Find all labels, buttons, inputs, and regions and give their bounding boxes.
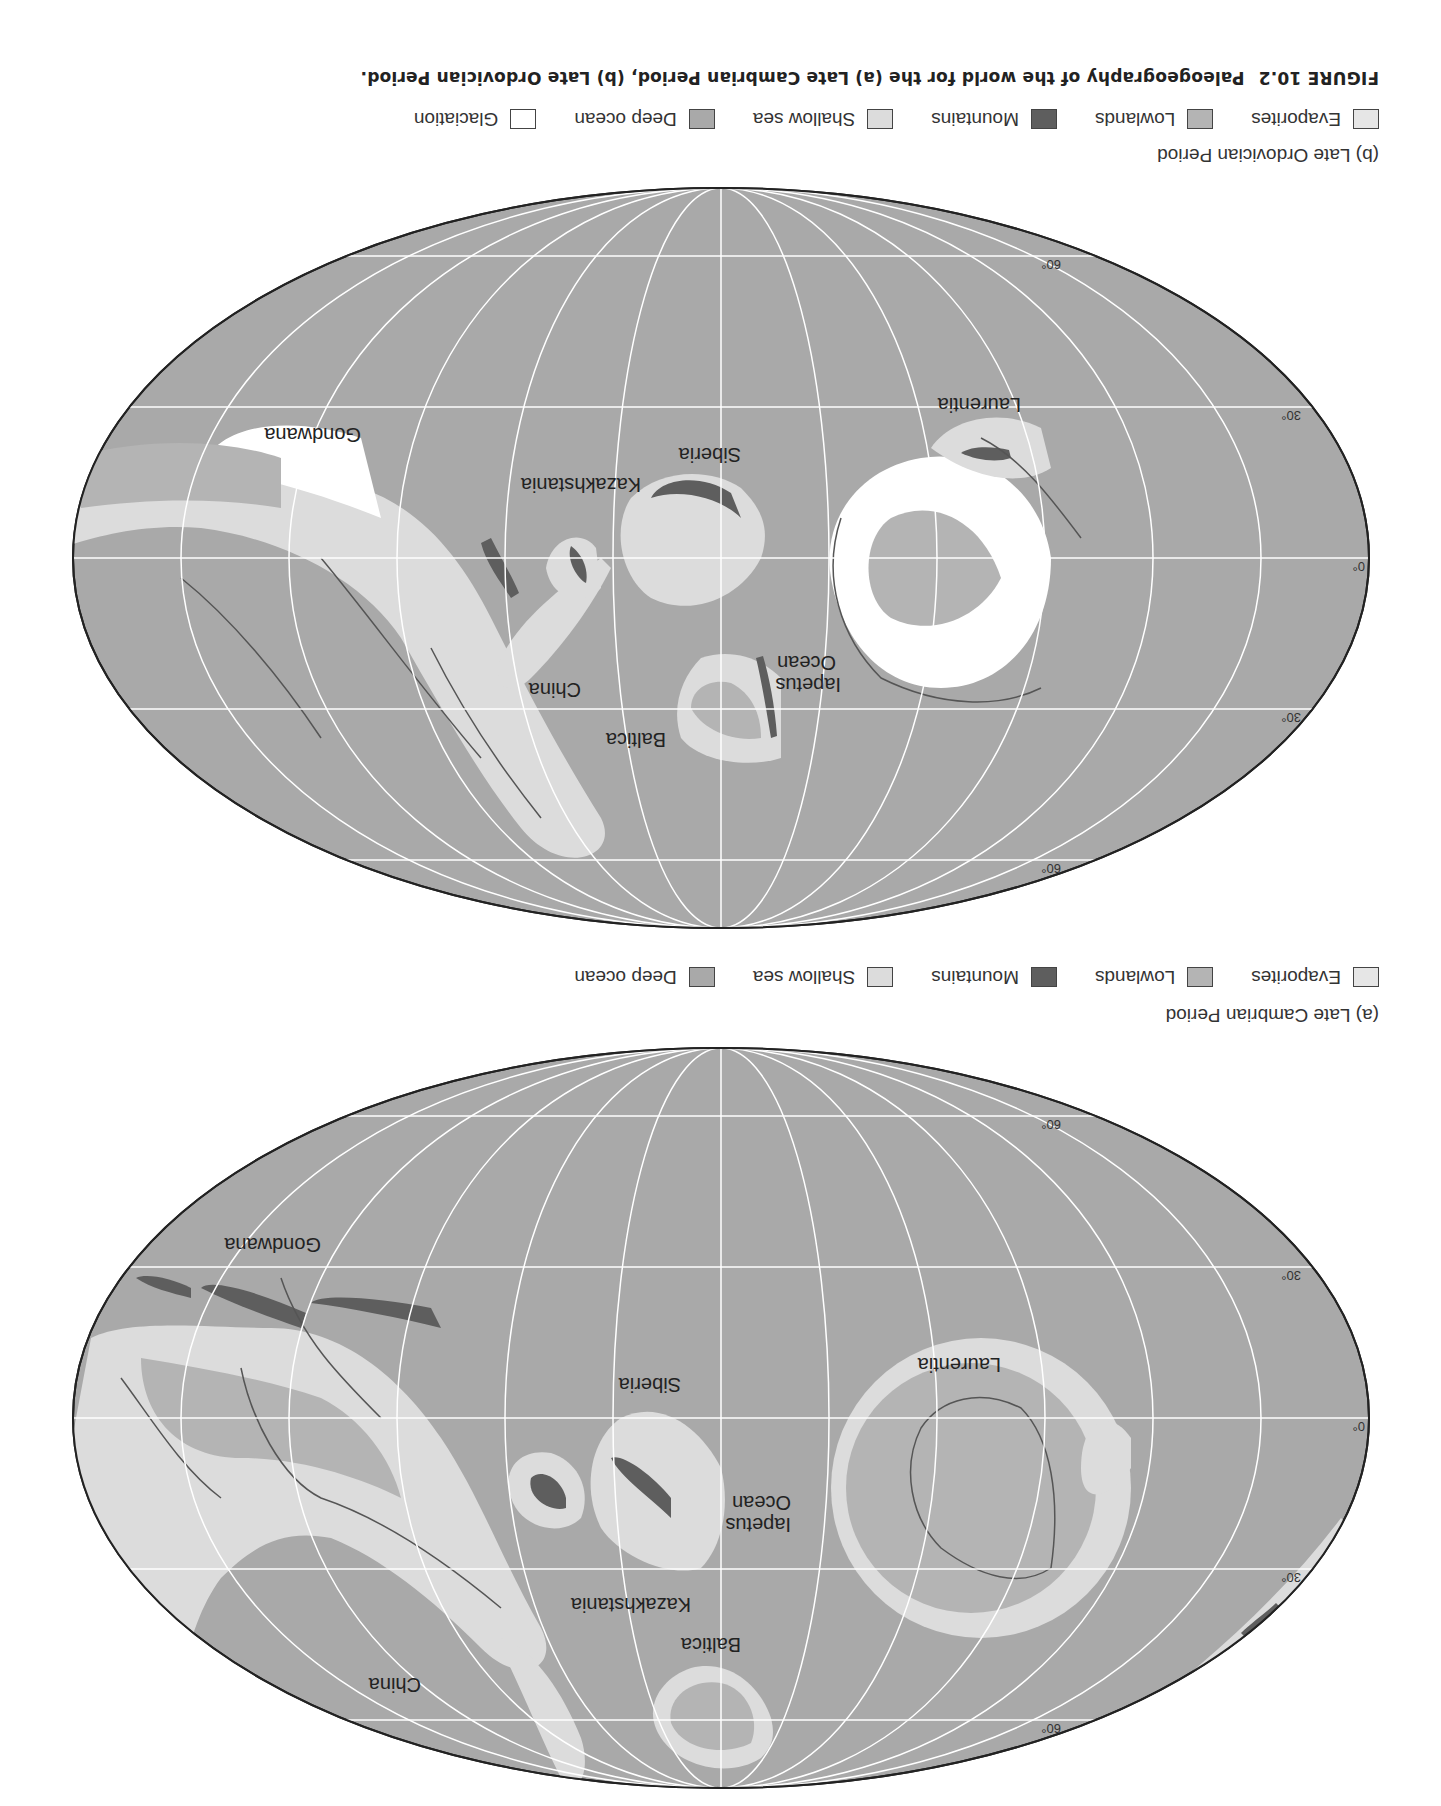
lat-label-30s: 30° <box>1281 408 1301 423</box>
label-china: China <box>368 1674 421 1696</box>
label-siberia: Siberia <box>678 444 741 466</box>
evaporites-swatch <box>1353 109 1379 129</box>
label-baltica: Baltica <box>680 1634 741 1656</box>
figure-caption: FIGURE 10.2Paleogeography of the world f… <box>360 68 1379 88</box>
map-a-legend: Evaporites Lowlands Mountains Shallow se… <box>574 966 1379 988</box>
label-ocean: Ocean <box>777 652 836 674</box>
map-a-svg: 60° 30° 0° 30° 60° Laurentia Iapetus Oce… <box>61 1038 1381 1798</box>
lowlands-swatch <box>1187 967 1213 987</box>
label-gondwana: Gondwana <box>223 1234 321 1256</box>
lat-label-30n: 30° <box>1281 1570 1301 1585</box>
map-b-caption: (b) Late Ordovician Period <box>1157 144 1379 166</box>
label-kazakhstania: Kazakhstania <box>520 474 641 496</box>
laurentia-lowlands <box>846 1363 1096 1613</box>
legend-label: Mountains <box>931 966 1019 988</box>
label-baltica: Baltica <box>605 729 666 751</box>
legend-item-shallow-sea: Shallow sea <box>753 108 893 130</box>
gondwana-lowlands <box>71 443 281 508</box>
legend-item-deep-ocean: Deep ocean <box>574 966 714 988</box>
lowlands-swatch <box>1187 109 1213 129</box>
legend-label: Mountains <box>931 108 1019 130</box>
legend-label: Lowlands <box>1095 966 1175 988</box>
legend-label: Lowlands <box>1095 108 1175 130</box>
legend-item-mountains: Mountains <box>931 966 1057 988</box>
label-iapetus: Iapetus <box>725 1514 791 1536</box>
textbook-page: 60° 30° 0° 30° 60° Laurentia Iapetus Oce… <box>0 0 1441 1806</box>
legend-item-lowlands: Lowlands <box>1095 966 1213 988</box>
shallow-sea-swatch <box>867 967 893 987</box>
lat-label-0: 0° <box>1353 1419 1365 1434</box>
glaciation-swatch <box>510 109 536 129</box>
legend-item-glaciation: Glaciation <box>414 108 537 130</box>
figure-number: FIGURE 10.2 <box>1259 68 1379 88</box>
legend-item-lowlands: Lowlands <box>1095 108 1213 130</box>
legend-item-deep-ocean: Deep ocean <box>574 108 714 130</box>
deep-ocean-swatch <box>689 967 715 987</box>
lat-label-60n: 60° <box>1041 861 1061 876</box>
label-ocean: Ocean <box>732 1492 791 1514</box>
map-a-caption: (a) Late Cambrian Period <box>1166 1004 1379 1026</box>
legend-item-evaporites: Evaporites <box>1251 108 1379 130</box>
legend-label: Shallow sea <box>753 966 855 988</box>
lat-label-0: 0° <box>1353 559 1365 574</box>
label-gondwana: Gondwana <box>263 424 361 446</box>
figure-title: Paleogeography of the world for the (a) … <box>360 68 1244 88</box>
legend-label: Glaciation <box>414 108 499 130</box>
evaporites-swatch <box>1353 967 1379 987</box>
map-b-svg: 60° 30° 0° 30° 60° Laurentia Iapetus Oce… <box>61 178 1381 938</box>
label-china: China <box>528 679 581 701</box>
label-kazakhstania: Kazakhstania <box>570 1594 691 1616</box>
label-laurentia: Laurentia <box>937 394 1021 416</box>
legend-label: Evaporites <box>1251 108 1341 130</box>
lat-label-60n: 60° <box>1041 1721 1061 1736</box>
legend-label: Shallow sea <box>753 108 855 130</box>
map-late-ordovician: 60° 30° 0° 30° 60° Laurentia Iapetus Oce… <box>61 178 1381 938</box>
lat-label-30n: 30° <box>1281 710 1301 725</box>
map-late-cambrian: 60° 30° 0° 30° 60° Laurentia Iapetus Oce… <box>61 1038 1381 1798</box>
mountains-swatch <box>1031 109 1057 129</box>
lat-label-60s: 60° <box>1041 1117 1061 1132</box>
legend-label: Deep ocean <box>574 966 676 988</box>
lat-label-30s: 30° <box>1281 1268 1301 1283</box>
map-b-legend: Evaporites Lowlands Mountains Shallow se… <box>414 108 1379 130</box>
legend-label: Deep ocean <box>574 108 676 130</box>
legend-item-shallow-sea: Shallow sea <box>753 966 893 988</box>
label-iapetus: Iapetus <box>775 674 841 696</box>
lat-label-60s: 60° <box>1041 257 1061 272</box>
label-laurentia: Laurentia <box>917 1354 1001 1376</box>
legend-item-mountains: Mountains <box>931 108 1057 130</box>
label-siberia: Siberia <box>618 1374 681 1396</box>
mountains-swatch <box>1031 967 1057 987</box>
deep-ocean-swatch <box>689 109 715 129</box>
shallow-sea-swatch <box>867 109 893 129</box>
legend-label: Evaporites <box>1251 966 1341 988</box>
legend-item-evaporites: Evaporites <box>1251 966 1379 988</box>
